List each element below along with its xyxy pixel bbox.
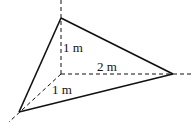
label-vertical: 1 m <box>63 40 83 55</box>
edge-front-right <box>19 74 173 112</box>
tetrahedron-diagram: 1 m 2 m 1 m <box>0 0 194 123</box>
label-depth: 1 m <box>52 82 72 97</box>
edge-top-front <box>19 18 61 112</box>
label-horizontal: 2 m <box>97 59 117 74</box>
